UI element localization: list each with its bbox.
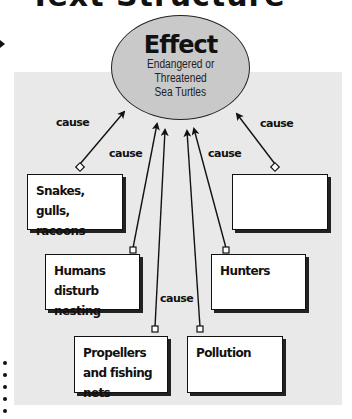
cause-label: cause — [109, 147, 142, 160]
cause-box-pollution[interactable]: Pollution — [187, 336, 283, 393]
cause-box-snakes[interactable]: Snakes, gulls, racoons — [27, 174, 123, 230]
cause-box-propellers[interactable]: Propellers and fishing nets — [74, 336, 168, 393]
cause-label: cause — [260, 117, 293, 130]
effect-ellipse: Effect Endangered or Threatened Sea Turt… — [111, 15, 250, 120]
effect-line-2: Threatened — [154, 71, 206, 85]
effect-line-3: Sea Turtles — [155, 85, 207, 99]
cause-label: cause — [160, 292, 193, 305]
cause-box-humans[interactable]: Humans disturb nesting — [45, 254, 140, 310]
effect-title: Effect — [144, 33, 217, 57]
cause-label: cause — [208, 147, 241, 160]
cause-box-empty[interactable] — [232, 174, 328, 230]
bullet-dot — [3, 409, 7, 413]
cause-label: cause — [56, 116, 89, 129]
bullet-dot — [3, 373, 7, 377]
effect-line-1: Endangered or — [147, 57, 214, 71]
bullet-dot — [3, 397, 7, 401]
bullet-dot — [3, 385, 7, 389]
bullet-dot — [3, 361, 7, 365]
cause-box-hunters[interactable]: Hunters — [211, 254, 306, 310]
